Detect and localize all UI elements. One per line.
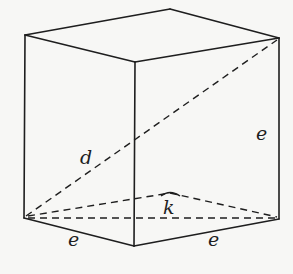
edge-vertical-front: [134, 62, 135, 246]
cube-diagram: d e k e e: [0, 0, 293, 274]
edge-bottom-front-right: [134, 219, 279, 246]
label-e-right: e: [256, 124, 267, 143]
cube-drawing: [0, 0, 293, 274]
label-e-bottom-left: e: [68, 230, 79, 249]
edge-top-back-right: [170, 9, 279, 38]
label-k: k: [163, 198, 175, 217]
edge-vertical-left: [24, 35, 25, 218]
space-diagonal-d: [26, 40, 277, 216]
edge-top-left-front: [25, 35, 135, 62]
dashed-lines: [26, 40, 277, 218]
hidden-edge-bottom-back-right: [170, 193, 277, 217]
edge-top-front-right: [135, 38, 279, 62]
label-e-bottom-right: e: [208, 230, 219, 249]
edge-top-left-back: [25, 9, 170, 35]
hidden-edge-bottom-left-back: [28, 193, 170, 216]
solid-edges: [24, 9, 279, 246]
label-d: d: [80, 148, 92, 167]
